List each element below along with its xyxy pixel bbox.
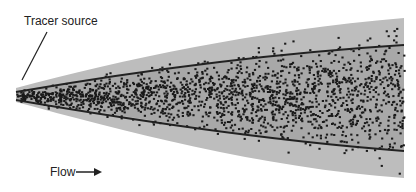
flow-label: Flow [50, 165, 75, 179]
source-pointer-line [22, 32, 47, 80]
tracer-source-label: Tracer source [24, 14, 98, 28]
flow-arrowhead-icon [94, 168, 102, 176]
plume-diagram: Tracer source Flow [0, 0, 416, 192]
plume-figure [0, 0, 416, 192]
